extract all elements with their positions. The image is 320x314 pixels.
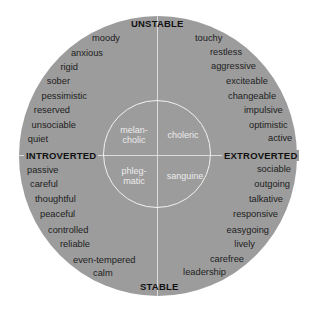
trait-label: leadership — [183, 267, 226, 278]
trait-label: optimistic — [249, 120, 288, 131]
temperament-melancholic: melan- cholic — [113, 125, 155, 145]
trait-label: reliable — [60, 239, 90, 250]
trait-label: easygoing — [227, 225, 269, 236]
axis-label-stable: STABLE — [140, 281, 179, 292]
axis-label-extroverted: EXTROVERTED — [222, 150, 299, 161]
trait-label: talkative — [249, 194, 283, 205]
trait-label: sociable — [257, 164, 291, 175]
trait-label: changeable — [228, 91, 276, 102]
inner-temperament-circle — [103, 100, 211, 208]
trait-label: restless — [210, 47, 242, 58]
trait-label: reserved — [34, 105, 70, 116]
trait-label: passive — [27, 165, 59, 176]
trait-label: moody — [92, 33, 120, 44]
trait-label: exciteable — [226, 76, 268, 87]
trait-label: active — [268, 133, 292, 144]
trait-label: quiet — [28, 134, 48, 145]
temperament-choleric: choleric — [160, 130, 206, 140]
trait-label: aggressive — [211, 61, 256, 72]
trait-label: controlled — [48, 225, 88, 236]
trait-label: peaceful — [40, 209, 75, 220]
trait-label: sober — [47, 76, 70, 87]
trait-label: touchy — [195, 33, 222, 44]
axis-label-introverted: INTROVERTED — [24, 150, 98, 161]
trait-label: even-tempered — [73, 255, 136, 266]
trait-label: lively — [234, 239, 255, 250]
trait-label: carefree — [210, 254, 244, 265]
trait-label: impulsive — [244, 105, 283, 116]
trait-label: responsive — [233, 209, 278, 220]
temperament-phlegmatic: phleg- matic — [113, 166, 155, 186]
trait-label: thoughtful — [35, 194, 76, 205]
axis-label-unstable: UNSTABLE — [131, 18, 184, 29]
temperament-sanguine: sanguine — [160, 171, 210, 181]
trait-label: rigid — [60, 62, 78, 73]
trait-label: unsociable — [32, 120, 76, 131]
trait-label: pessimistic — [42, 91, 87, 102]
trait-label: anxious — [71, 48, 103, 59]
trait-label: calm — [93, 268, 113, 279]
trait-label: careful — [30, 179, 58, 190]
trait-label: outgoing — [254, 179, 290, 190]
